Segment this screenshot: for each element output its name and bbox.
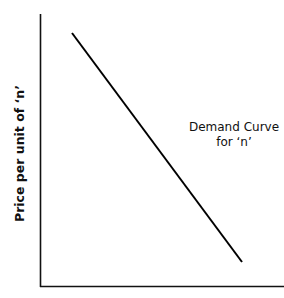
y-axis-label: Price per unit of ‘n’ <box>12 85 27 222</box>
curve-label-line2: for ‘n’ <box>186 135 282 150</box>
demand-curve-diagram: Price per unit of ‘n’ Demand Curve for ‘… <box>0 0 284 298</box>
curve-label-line1: Demand Curve <box>186 120 282 135</box>
curve-label: Demand Curve for ‘n’ <box>186 120 282 150</box>
